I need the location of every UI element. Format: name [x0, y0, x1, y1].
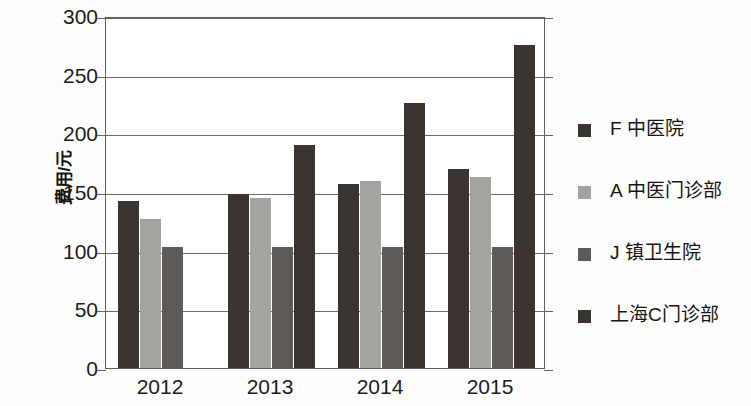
bar [492, 247, 513, 368]
y-axis-tick-mark [544, 370, 553, 371]
x-axis-tick-label: 2015 [435, 375, 545, 399]
bar [250, 198, 271, 368]
y-axis-tick-labels: 050100150200250300 [36, 0, 98, 406]
y-axis-tick-label: 50 [42, 299, 98, 320]
bar [514, 45, 535, 368]
x-axis-tick-labels: 2012201320142015 [105, 375, 545, 405]
legend-item-label: A 中医门诊部 [610, 178, 722, 204]
legend-swatch-icon [578, 248, 591, 261]
bars-layer [106, 18, 544, 368]
bar [404, 103, 425, 368]
bar [272, 247, 293, 368]
legend-item[interactable]: F 中医院 [578, 118, 750, 180]
x-axis-tick-label: 2014 [325, 375, 435, 399]
y-axis-tick-mark [97, 370, 106, 371]
bar [470, 177, 491, 368]
bar-group [326, 18, 436, 368]
y-axis-tick-mark [97, 77, 106, 78]
bar [140, 219, 161, 368]
y-axis-tick-mark [97, 253, 106, 254]
bar-group [106, 18, 216, 368]
y-axis-tick-label: 250 [42, 65, 98, 86]
bar-chart-figure: 费用/元 050100150200250300 2012201320142015… [0, 0, 751, 406]
bar [228, 194, 249, 368]
y-axis-tick-label: 100 [42, 241, 98, 262]
bar [382, 247, 403, 368]
bar [118, 201, 139, 368]
y-axis-tick-label: 200 [42, 123, 98, 144]
legend-item[interactable]: 上海C门诊部 [578, 304, 750, 366]
legend-item-label: 上海C门诊部 [610, 302, 719, 328]
y-axis-tick-mark [97, 135, 106, 136]
bar-group [436, 18, 546, 368]
chart-legend: F 中医院A 中医门诊部J 镇卫生院上海C门诊部 [578, 118, 750, 366]
legend-swatch-icon [578, 310, 591, 323]
bar [448, 169, 469, 368]
legend-swatch-icon [578, 124, 591, 137]
x-axis-tick-label: 2013 [215, 375, 325, 399]
bar [162, 247, 183, 368]
legend-swatch-icon [578, 186, 591, 199]
y-axis-tick-mark [97, 194, 106, 195]
bar-group [216, 18, 326, 368]
y-axis-tick-label: 300 [42, 6, 98, 27]
y-axis-tick-label: 0 [42, 358, 98, 379]
plot-area [105, 17, 545, 369]
bar [360, 181, 381, 368]
y-axis-tick-mark [97, 18, 106, 19]
legend-item-label: J 镇卫生院 [610, 240, 701, 266]
y-axis-tick-mark [97, 311, 106, 312]
y-axis-tick-label: 150 [42, 182, 98, 203]
legend-item[interactable]: A 中医门诊部 [578, 180, 750, 242]
bar [294, 145, 315, 368]
legend-item[interactable]: J 镇卫生院 [578, 242, 750, 304]
legend-item-label: F 中医院 [610, 116, 684, 142]
x-axis-tick-label: 2012 [105, 375, 215, 399]
bar [338, 184, 359, 368]
